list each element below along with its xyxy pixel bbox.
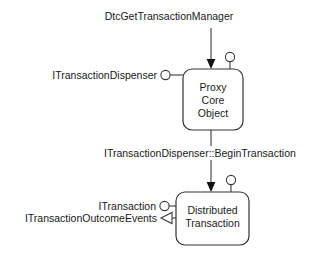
itransactiondispenser-lollipop [161, 70, 183, 79]
diagram-canvas: DtcGetTransactionManager ITransactionDis… [0, 0, 328, 262]
proxy-core-object-line-2: Core [202, 94, 225, 106]
entry-point-label: DtcGetTransactionManager [105, 10, 234, 22]
distributed-transaction-top-lollipop [226, 175, 235, 192]
distributed-transaction-line-1: Distributed [187, 204, 237, 216]
itransactionoutcomeevents-label: ITransactionOutcomeEvents [25, 212, 157, 224]
itransaction-lollipop [160, 201, 176, 210]
begintransaction-label: ITransactionDispenser::BeginTransaction [104, 147, 296, 159]
dtcget-to-proxy-arrow [207, 28, 216, 69]
proxy-core-object-line-1: Proxy [200, 81, 228, 93]
itransaction-label: ITransaction [99, 200, 157, 212]
proxy-top-lollipop [225, 52, 234, 69]
distributed-transaction-line-2: Transaction [185, 217, 240, 229]
begintransaction-flow-arrow [207, 130, 216, 192]
proxy-core-object-line-3: Object [198, 107, 228, 119]
itransactionoutcomeevents-arrow [161, 213, 176, 224]
component-interface-diagram: DtcGetTransactionManager ITransactionDis… [0, 0, 328, 262]
itransactiondispenser-label: ITransactionDispenser [52, 69, 157, 81]
